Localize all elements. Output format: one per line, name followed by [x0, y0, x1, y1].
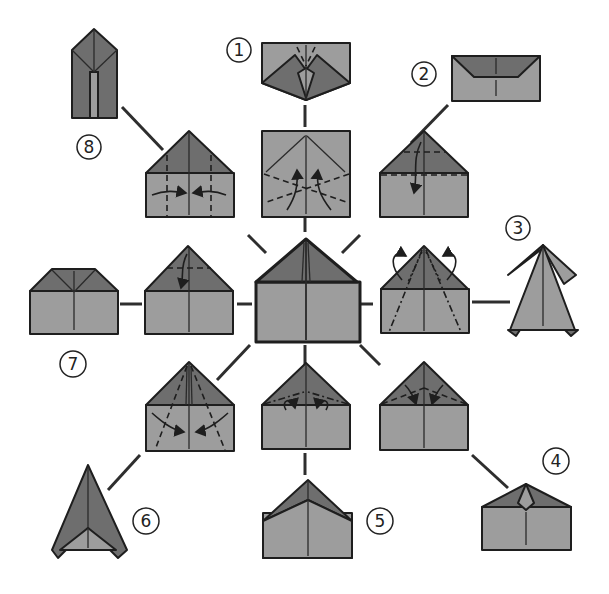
step-5-figure: [263, 480, 352, 558]
step-6-number: 6: [141, 511, 152, 531]
origami-diagram: 1 2 8: [0, 0, 609, 594]
step-5-number: 5: [375, 511, 386, 531]
square-fold-figure: [262, 131, 350, 217]
step-3-number: 3: [513, 218, 524, 238]
center-base-figure: [256, 239, 360, 342]
step-7-figure: [30, 269, 118, 334]
step-2-figure: [452, 56, 540, 101]
step-1-number: 1: [234, 40, 245, 60]
step-8-number: 8: [84, 137, 95, 157]
left-middle-fold-figure: [145, 246, 233, 334]
step-3-figure: [508, 245, 578, 336]
step-4-number: 4: [551, 451, 562, 471]
step-2-number: 2: [419, 64, 430, 84]
right-middle-fold-figure: [381, 246, 469, 333]
step-1-figure: [262, 43, 350, 100]
step-8-figure: [72, 29, 117, 118]
lower-right-fold-figure: [380, 362, 468, 450]
lower-center-fold-figure: [262, 363, 350, 449]
step-4-figure: [482, 484, 571, 550]
step-6-figure: [52, 465, 127, 558]
upper-right-fold-figure: [380, 131, 468, 217]
step-7-number: 7: [68, 354, 79, 374]
